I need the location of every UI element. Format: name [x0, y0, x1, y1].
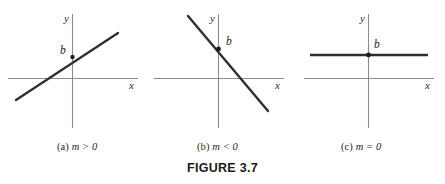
panel-b-caption-expression: m < 0	[212, 141, 238, 152]
panel-c-caption-tag: (c)	[341, 141, 353, 152]
figure-title: FIGURE 3.7	[0, 161, 445, 175]
panel-c-caption: (c) m = 0	[341, 141, 381, 152]
panel-a-caption-expression: m > 0	[72, 141, 98, 152]
panel-c-intercept-label: b	[374, 38, 380, 50]
panel-b-x-axis-label: x	[274, 79, 280, 91]
panel-a-intercept-label: b	[60, 44, 66, 56]
panel-c-intercept-dot	[366, 53, 371, 58]
panel-b-y-axis-label: y	[209, 12, 215, 24]
panel-c-x-axis-label: x	[424, 79, 430, 91]
panel-a-x-axis-label: x	[128, 79, 134, 91]
panel-b-intercept-label: b	[226, 35, 232, 47]
panel-b-graph: b y x	[154, 12, 284, 128]
panel-b-intercept-dot	[216, 47, 221, 52]
panel-b-caption-tag: (b)	[197, 141, 210, 152]
panel-b-caption: (b) m < 0	[197, 141, 238, 152]
figure-graphics: b y x b y x b y x	[0, 0, 445, 184]
panel-c-y-axis-label: y	[359, 12, 365, 24]
panel-b-line	[188, 16, 268, 111]
panel-a-y-axis-label: y	[63, 12, 69, 24]
panel-a-caption-tag: (a)	[57, 141, 69, 152]
panel-c-graph: b y x	[304, 12, 434, 128]
panel-a-caption: (a) m > 0	[57, 141, 97, 152]
panel-a-intercept-dot	[70, 55, 74, 59]
panel-a-graph: b y x	[8, 12, 138, 128]
figure-3-7: b y x b y x b y x (a) m > 0 (b	[0, 0, 445, 184]
panel-c-caption-expression: m = 0	[356, 141, 382, 152]
panel-a-line	[16, 33, 118, 100]
